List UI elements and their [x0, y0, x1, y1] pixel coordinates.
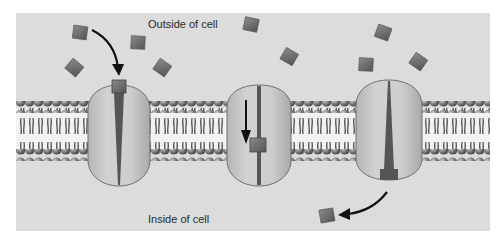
molecule-released	[319, 208, 335, 223]
molecule-binding	[112, 80, 126, 93]
transport-protein-3	[356, 80, 422, 180]
molecule	[72, 25, 88, 40]
inside-label: Inside of cell	[148, 213, 209, 225]
outside-label: Outside of cell	[148, 18, 218, 30]
molecule-in-transit	[250, 138, 266, 152]
molecule	[359, 58, 374, 72]
molecule	[131, 36, 146, 50]
molecule	[243, 17, 259, 33]
transport-protein-2	[227, 85, 291, 186]
membrane-transport-diagram: Outside of cell Inside of cell	[0, 0, 501, 243]
transport-protein-1	[88, 80, 150, 186]
protein-channel	[257, 86, 261, 185]
